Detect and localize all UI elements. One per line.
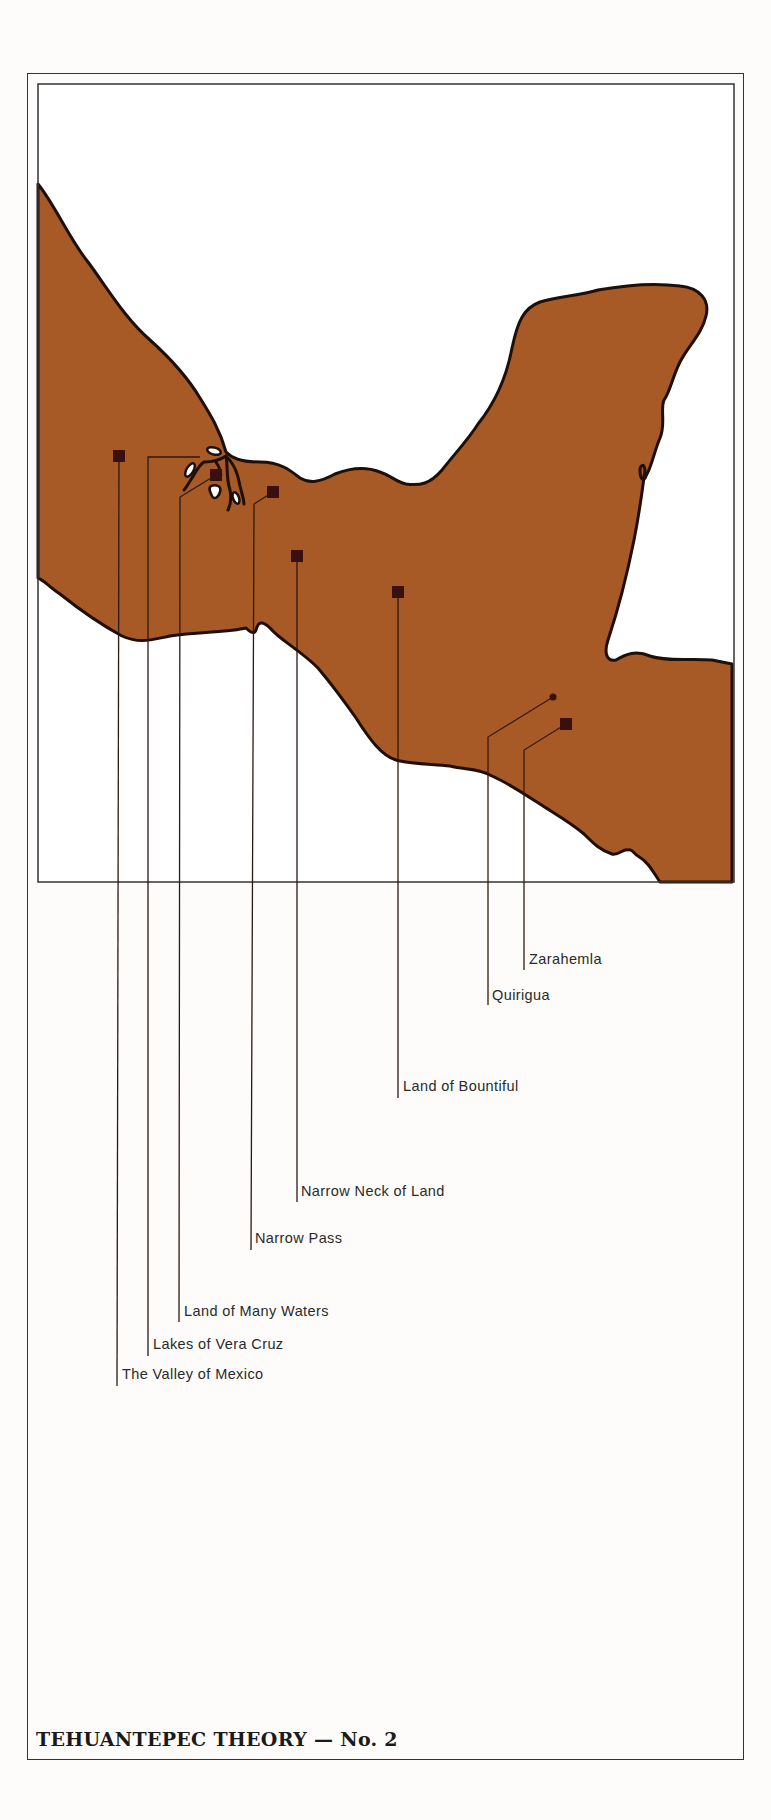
label-land-of-many-waters: Land of Many Waters [184, 1303, 329, 1319]
label-quirigua: Quirigua [492, 987, 550, 1003]
label-narrow-neck-of-land: Narrow Neck of Land [301, 1183, 445, 1199]
label-lakes-of-vera-cruz: Lakes of Vera Cruz [153, 1336, 284, 1352]
marker-narrow-pass [267, 486, 279, 498]
label-valley-of-mexico: The Valley of Mexico [122, 1366, 264, 1382]
marker-many-waters [210, 469, 222, 481]
marker-valley-mexico [113, 450, 125, 462]
map-title: TEHUANTEPEC THEORY — No. 2 [36, 1728, 398, 1750]
label-zarahemla: Zarahemla [529, 951, 602, 967]
marker-bountiful [392, 586, 404, 598]
label-land-of-bountiful: Land of Bountiful [403, 1078, 519, 1094]
marker-quirigua [550, 694, 557, 701]
map-canvas [0, 0, 771, 1820]
marker-zarahemla [560, 718, 572, 730]
marker-narrow-neck [291, 550, 303, 562]
label-narrow-pass: Narrow Pass [255, 1230, 342, 1246]
